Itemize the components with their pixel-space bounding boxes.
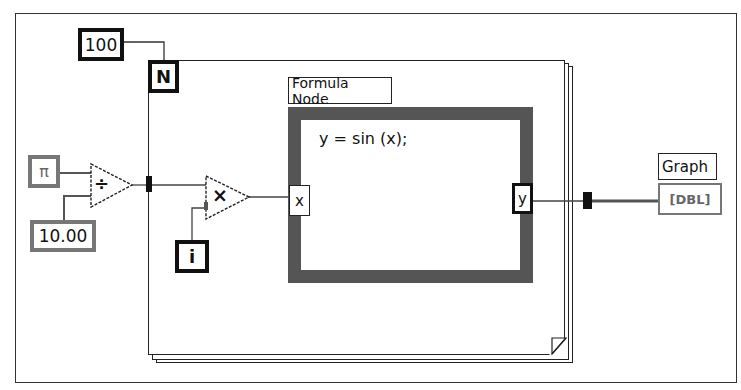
output-tunnel[interactable]	[583, 192, 592, 209]
graph-label: Graph	[658, 153, 717, 180]
divide-symbol: ÷	[94, 173, 109, 194]
graph-indicator[interactable]: [DBL]	[658, 183, 722, 215]
formula-node[interactable]: y = sin (x);	[288, 107, 533, 283]
formula-input-x[interactable]: x	[289, 185, 310, 216]
formula-node-body: y = sin (x);	[301, 120, 520, 270]
formula-node-label: Formula Node	[288, 77, 392, 104]
count-terminal[interactable]: N	[148, 60, 179, 93]
input-tunnel[interactable]	[146, 176, 152, 192]
divide-function[interactable]: ÷	[90, 163, 134, 208]
divisor-constant[interactable]: 10.00	[30, 220, 96, 252]
iteration-terminal[interactable]: i	[175, 240, 209, 273]
loop-count-constant[interactable]: 100	[78, 28, 124, 61]
multiply-symbol: ×	[212, 184, 228, 206]
formula-text[interactable]: y = sin (x);	[319, 129, 407, 148]
multiply-function[interactable]: ×	[205, 175, 251, 220]
formula-output-y[interactable]: y	[512, 183, 533, 214]
pi-constant[interactable]: π	[28, 155, 60, 188]
